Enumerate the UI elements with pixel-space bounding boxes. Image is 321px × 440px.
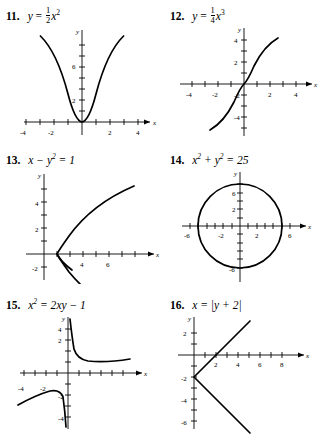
x-tick-label: 2 [108,129,112,137]
graph-12: x y -4 -2 2 4 [170,22,320,140]
graph-11: x y -4 -2 2 4 [10,22,160,140]
x-tick-label: 6 [106,261,110,269]
x-tick-label: 6 [288,232,292,240]
x-axis-arrow [136,371,142,376]
x-tick-label: 2 [268,91,272,99]
fraction-numerator: 1 [46,5,50,15]
x-tick-label: 4 [236,361,240,369]
x-axis-arrow [148,252,154,257]
y-ticks: -6 2 6 [229,184,243,274]
x-tick-label: 4 [136,129,140,137]
y-ticks: 2 6 [72,45,85,111]
x-axis-label: x [143,370,148,378]
y-tick-label: 2 [35,226,39,234]
x-tick-label: -2 [212,91,218,99]
y-tick-label: 4 [35,200,39,208]
y-tick-label: 2 [234,59,238,67]
y-tick-label: -4 [234,114,240,122]
y-tick-label: 2 [72,97,76,105]
x-axis-label: x [155,251,160,259]
y-tick-label: 4 [234,37,238,45]
x-tick-label: -2 [48,129,54,137]
equation-text: x^2 + y^2 = 25 x2 + y2 = 25 [192,154,248,166]
problem-number: 12. [170,10,184,22]
y-axis-label: y [237,26,242,34]
equation-exponent: 3 [221,8,225,17]
x-tick-label: 6 [258,361,262,369]
equation-equals: = [200,10,207,22]
y-tick-label: 2 [183,330,187,338]
graph-14: x y -6 -2 2 6 [170,166,320,288]
x-tick-label: -4 [18,385,24,393]
equation-exponent: 2 [56,8,60,17]
problem-number: 13. [6,154,20,166]
y-tick-label: 2 [232,206,236,214]
y-axis-label: y [233,170,238,178]
y-tick-label: -6 [181,419,187,427]
exercise-page: 11. y = 1 2 x2 x y [0,0,321,440]
x-tick-label: 2 [214,361,218,369]
y-axis-label: y [187,315,192,323]
y-tick-label: 6 [72,63,76,71]
y-tick-label: -2 [32,265,38,273]
equation-text: x - y^2 = 1 x − y2 = 1 [28,154,75,166]
graph-15: x y -4 -2 [10,311,160,435]
problem-number: 14. [170,154,184,166]
y-tick-label: -4 [58,415,64,423]
equation-lhs: y [28,10,33,22]
x-axis-arrow [306,82,312,87]
y-tick-label: -2 [181,375,187,383]
x-axis-arrow [144,120,150,125]
fraction-numerator: 1 [211,5,215,15]
y-tick-label: -4 [181,397,187,405]
problem-number: 15. [6,299,20,311]
graph-16: x y 2 4 6 8 [170,311,320,435]
x-axis-label: x [307,223,312,231]
graph-13: x y 4 6 -2 2 4 [14,166,164,284]
curve-hyperbola-right [70,319,130,362]
x-tick-label: 4 [294,91,298,99]
x-axis-label: x [305,352,310,360]
curve-absolute-value [194,321,250,433]
x-tick-label: -4 [20,129,26,137]
y-tick-label: 4 [58,326,62,334]
equation-lhs: y [192,10,197,22]
x-axis-label: x [152,119,157,127]
x-tick-label: 8 [280,361,284,369]
equation-text: x^2 = 2xy - 1 x2 = 2xy − 1 [28,299,86,311]
x-axis-arrow [298,353,304,358]
problem-number: 11. [6,10,20,22]
problem-number: 16. [170,299,184,311]
equation-text: x = |y + 2| x = |y + 2| [192,299,241,311]
y-ticks: -2 2 4 [32,189,47,273]
y-tick-label: 6 [232,190,236,198]
x-axis-label: x [313,81,318,89]
x-tick-label: -6 [184,232,190,240]
x-tick-label: -2 [218,232,224,240]
y-axis-label: y [75,28,80,36]
x-tick-label: 2 [255,232,259,240]
x-tick-label: -4 [186,91,192,99]
x-ticks: -4 -2 [18,370,123,393]
x-axis-arrow [300,224,306,229]
curve-sideways-parabola [57,186,134,284]
equation-equals: = [36,10,43,22]
y-axis-label: y [61,315,66,323]
y-axis-label: y [37,172,42,180]
y-tick-label: 2 [58,337,62,345]
x-tick-label: 4 [80,261,84,269]
